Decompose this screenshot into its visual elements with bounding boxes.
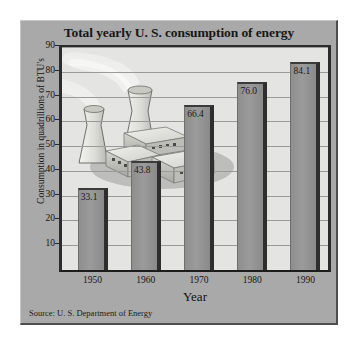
source-note: Source: U. S. Department of Energy	[29, 308, 152, 318]
y-tick-label: 30	[37, 190, 55, 200]
gridline	[62, 72, 328, 73]
bar-1970: 66.4	[184, 105, 214, 270]
gridline	[62, 47, 328, 48]
x-axis-title: Year	[59, 289, 331, 305]
y-tick-label: 40	[37, 165, 55, 175]
y-tick-label: 80	[37, 66, 55, 76]
plot-inner: 33.143.866.476.084.1	[62, 47, 328, 270]
bar-1980: 76.0	[237, 82, 267, 270]
y-tick-label: 70	[37, 91, 55, 101]
y-axis-ticks: 908070605040302010	[35, 45, 55, 269]
bar-1990: 84.1	[290, 62, 320, 270]
x-tick-label-1950: 1950	[70, 275, 116, 285]
x-tick-label-1970: 1970	[176, 275, 222, 285]
x-tick-label-1980: 1980	[229, 275, 275, 285]
plant-building-rear	[124, 127, 188, 157]
y-tick-label: 10	[37, 239, 55, 249]
bar-value-label: 84.1	[291, 66, 312, 76]
chart-title: Total yearly U. S. consumption of energy	[21, 25, 337, 41]
y-tick-label: 20	[37, 214, 55, 224]
bar-1960: 43.8	[131, 161, 161, 270]
y-tick-label: 90	[37, 41, 55, 51]
bar-1950: 33.1	[78, 188, 108, 270]
x-tick-label-1990: 1990	[282, 275, 328, 285]
plot-area: 33.143.866.476.084.1	[59, 45, 331, 272]
cooling-tower-left	[79, 109, 108, 163]
cooling-tower-right	[122, 90, 156, 159]
gridline	[62, 97, 328, 98]
bar-value-label: 76.0	[238, 86, 259, 96]
bar-value-label: 43.8	[132, 165, 153, 175]
y-tick-label: 60	[37, 115, 55, 125]
bar-value-label: 33.1	[79, 192, 100, 202]
y-tick-label: 50	[37, 140, 55, 150]
x-tick-label-1960: 1960	[123, 275, 169, 285]
chart-panel: Total yearly U. S. consumption of energy…	[20, 20, 338, 325]
chart-page: Total yearly U. S. consumption of energy…	[0, 0, 353, 339]
bar-value-label: 66.4	[185, 109, 206, 119]
